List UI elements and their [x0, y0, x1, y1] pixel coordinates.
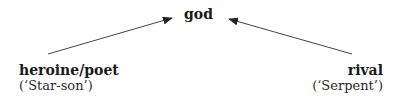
arrow-rival-to-god — [229, 19, 352, 54]
node-heroine-poet-sublabel: (‘Star-son’) — [19, 79, 93, 92]
node-god: god — [184, 7, 213, 21]
node-rival: rival — [348, 63, 383, 77]
node-heroine-poet: heroine/poet — [19, 63, 119, 77]
arrow-heroine-to-god — [48, 18, 172, 54]
node-rival-sublabel: (‘Serpent’) — [312, 79, 383, 92]
